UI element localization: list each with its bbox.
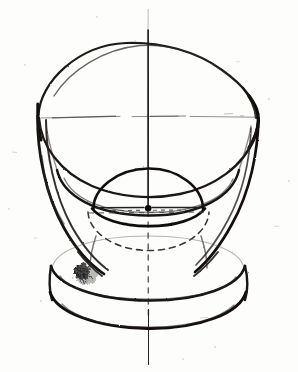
rim-horizontal-axis-dark-left <box>52 116 116 118</box>
construction-ghost-mark <box>224 114 244 116</box>
paper-mark-a <box>12 152 17 153</box>
goblet-drawing <box>0 0 298 372</box>
drawing-canvas: Goblet — axis construction study <box>0 0 298 372</box>
knop-center-dot <box>145 205 152 212</box>
paper-mark-d <box>200 317 208 318</box>
vertical-axis-group <box>148 9 149 364</box>
paper-marks <box>12 62 279 319</box>
rim-arc-upper-second-pass <box>54 45 232 96</box>
paper-mark-e <box>236 62 240 63</box>
